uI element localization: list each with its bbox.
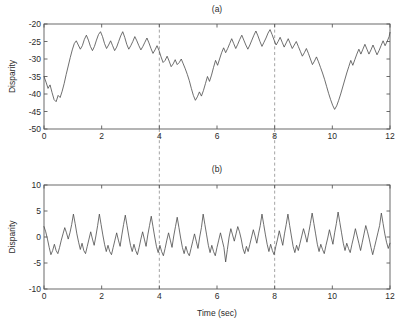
xtick-label: 12 xyxy=(385,291,395,301)
xtick-label: 4 xyxy=(157,291,162,301)
xtick-label: 8 xyxy=(272,131,277,141)
xtick-label: 8 xyxy=(272,291,277,301)
figure-container: (a) -50-45-40-35-30-25-20 024681012 Disp… xyxy=(0,0,407,321)
ytick-label: -5 xyxy=(33,258,41,268)
subplot-a-title: (a) xyxy=(212,4,223,14)
xtick-label: 10 xyxy=(328,291,338,301)
subplot-a-y-axis-title: Disparity xyxy=(7,59,17,93)
xtick-label: 12 xyxy=(385,131,395,141)
xtick-label: 10 xyxy=(328,131,338,141)
ytick-label: 0 xyxy=(36,232,41,242)
ytick-label: -30 xyxy=(29,54,42,64)
ytick-label: -35 xyxy=(29,72,42,82)
xtick-label: 6 xyxy=(215,291,220,301)
figure-svg: (a) -50-45-40-35-30-25-20 024681012 Disp… xyxy=(0,0,407,321)
ytick-label: -45 xyxy=(29,107,42,117)
xtick-label: 0 xyxy=(42,131,47,141)
ytick-label: -10 xyxy=(29,284,42,294)
xtick-label: 0 xyxy=(42,291,47,301)
x-axis-title: Time (sec) xyxy=(197,308,237,318)
xtick-label: 2 xyxy=(99,131,104,141)
ytick-label: 10 xyxy=(32,180,42,190)
ytick-label: -25 xyxy=(29,37,42,47)
figure-background xyxy=(0,0,407,321)
xtick-label: 4 xyxy=(157,131,162,141)
ytick-label: -50 xyxy=(29,124,42,134)
ytick-label: 5 xyxy=(36,206,41,216)
subplot-b-title: (b) xyxy=(212,164,223,174)
ytick-label: -20 xyxy=(29,19,42,29)
xtick-label: 2 xyxy=(99,291,104,301)
subplot-b-y-axis-title: Disparity xyxy=(7,220,17,254)
ytick-label: -40 xyxy=(29,89,42,99)
xtick-label: 6 xyxy=(215,131,220,141)
